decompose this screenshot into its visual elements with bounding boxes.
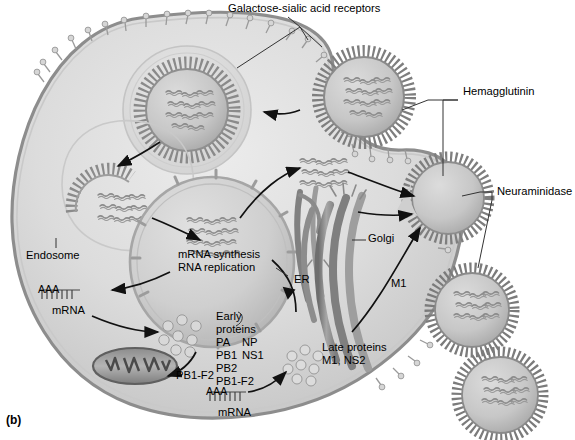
- label-late-proteins-line2: M1, NS2: [322, 354, 366, 367]
- figure-canvas: Galactose-sialic acid receptors Hemagglu…: [0, 0, 575, 440]
- panel-label: (b): [6, 414, 21, 427]
- label-early-protein-pb1: PB1: [216, 349, 237, 362]
- label-early-protein-np: NP: [242, 336, 258, 349]
- label-late-proteins-line1: Late proteins: [322, 341, 387, 354]
- mitochondrion: [93, 348, 177, 384]
- label-early-proteins-line1: Early: [216, 310, 242, 323]
- label-early-protein-pb1f2: PB1-F2: [216, 375, 254, 388]
- receptor-icon: [34, 69, 44, 82]
- label-mrna-lower: mRNA: [218, 406, 251, 419]
- receptor-icon: [393, 368, 404, 379]
- label-early-protein-pa: PA: [216, 336, 230, 349]
- label-er: ER: [294, 273, 310, 286]
- virion-released-lower: [457, 352, 543, 438]
- receptor-icon: [68, 35, 76, 49]
- label-golgi: Golgi: [368, 232, 394, 245]
- label-mitochondrion-pb1f2: PB1-F2: [176, 369, 214, 382]
- label-galactose-sialic-acid-receptors: Galactose-sialic acid receptors: [228, 2, 380, 15]
- label-endosome: Endosome: [26, 249, 80, 262]
- label-mrna-upper: mRNA: [52, 304, 85, 317]
- label-early-protein-pb2: PB2: [216, 362, 237, 375]
- label-early-proteins-line2: proteins: [216, 323, 256, 336]
- influenza-replication-diagram: [0, 0, 575, 440]
- receptor-icon: [420, 340, 433, 348]
- label-nucleus-function-line2: RNA replication: [178, 261, 255, 274]
- receptor-icon: [408, 356, 420, 366]
- label-m1: M1: [391, 277, 407, 290]
- label-poly-a-upper: AAA: [38, 283, 59, 296]
- receptor-icon: [40, 59, 50, 72]
- receptor-icon: [376, 378, 385, 390]
- receptor-icon: [52, 47, 62, 60]
- label-hemagglutinin: Hemagglutinin: [463, 85, 535, 98]
- label-nucleus-function-line1: mRNA synthesis: [178, 248, 260, 261]
- label-neuraminidase: Neuraminidase: [497, 185, 572, 198]
- label-early-protein-ns1: NS1: [242, 349, 264, 362]
